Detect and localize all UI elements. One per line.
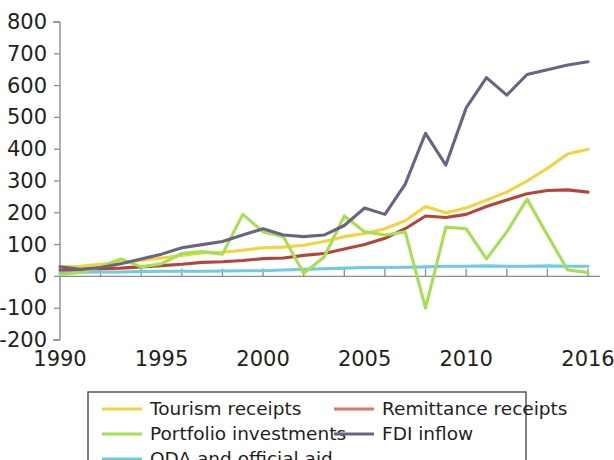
- legend-label-oda-and-official-aid[interactable]: ODA and official aid: [150, 448, 333, 460]
- x-tick-label-2000: 2000: [236, 347, 289, 371]
- y-tick-label-800: 800: [7, 10, 47, 34]
- y-tick-label-600: 600: [7, 74, 47, 98]
- y-tick-label-500: 500: [7, 105, 47, 129]
- chart-legend: Tourism receiptsRemittance receiptsPortf…: [88, 392, 567, 460]
- legend-label-fdi-inflow[interactable]: FDI inflow: [382, 423, 473, 444]
- y-tick-label-300: 300: [7, 169, 47, 193]
- legend-label-tourism-receipts[interactable]: Tourism receipts: [149, 398, 301, 419]
- series-line-tourism-receipts: [60, 149, 588, 267]
- y-tick-labels: 8007006005004003002001000-100-200: [0, 10, 47, 352]
- y-tick-marks: [54, 22, 60, 340]
- y-axis: 8007006005004003002001000-100-200: [0, 10, 60, 352]
- x-tick-labels: 199019952000200520102016: [33, 347, 614, 371]
- y-tick-label--100: -100: [0, 296, 47, 320]
- line-chart: 8007006005004003002001000-100-200 199019…: [0, 0, 614, 460]
- x-tick-label-1990: 1990: [33, 347, 86, 371]
- y-tick-label-100: 100: [7, 233, 47, 257]
- x-tick-label-2010: 2010: [439, 347, 492, 371]
- y-tick-label-0: 0: [34, 264, 47, 288]
- legend-label-remittance-receipts[interactable]: Remittance receipts: [382, 398, 567, 419]
- x-tick-label-2005: 2005: [338, 347, 391, 371]
- y-tick-label-200: 200: [7, 201, 47, 225]
- x-tick-label-2016: 2016: [561, 347, 614, 371]
- chart-figure: 8007006005004003002001000-100-200 199019…: [0, 0, 614, 460]
- legend-label-portfolio-investments[interactable]: Portfolio investments: [150, 423, 346, 444]
- series-line-fdi-inflow: [60, 62, 588, 270]
- x-tick-label-1995: 1995: [135, 347, 188, 371]
- y-tick-label-700: 700: [7, 42, 47, 66]
- y-tick-label-400: 400: [7, 137, 47, 161]
- x-axis: 199019952000200520102016: [33, 268, 614, 371]
- data-series-group: [60, 62, 588, 308]
